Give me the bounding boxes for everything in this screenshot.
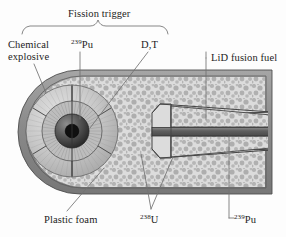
label-plastic-foam: Plastic foam: [44, 214, 97, 226]
label-lid-fusion-fuel: LiD fusion fuel: [211, 52, 277, 64]
diagram-canvas: [0, 0, 286, 237]
label-dt: D,T: [141, 39, 158, 51]
fission-trigger-bracket: [22, 20, 168, 34]
label-u238-mass: 238: [140, 213, 151, 221]
label-u238: 238U: [140, 214, 159, 226]
fusion-bomb-diagram: Fission trigger Chemicalexplosive 239Pu …: [0, 0, 286, 237]
label-chemical-explosive: Chemicalexplosive: [8, 39, 49, 62]
label-fission-trigger: Fission trigger: [68, 8, 130, 20]
label-u238-symbol: U: [151, 214, 159, 225]
pu239-spark-plug-rod: [152, 128, 271, 137]
label-pu239-bottom-symbol: Pu: [245, 214, 256, 225]
label-chemical-explosive-line1: Chemical: [8, 39, 49, 50]
label-pu239-bottom-mass: 239: [234, 213, 245, 221]
label-pu239-top-mass: 239: [71, 38, 82, 46]
label-pu239-top-symbol: Pu: [82, 39, 93, 50]
label-chemical-explosive-line2: explosive: [8, 51, 49, 62]
fission-trigger-assembly: [26, 85, 118, 177]
label-pu239-bottom: 239Pu: [234, 214, 256, 226]
label-pu239-top: 239Pu: [71, 39, 93, 51]
